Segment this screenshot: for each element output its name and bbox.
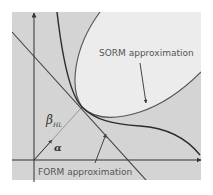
sorm-label: SORM approximation — [99, 48, 194, 58]
form-label: FORM approximation — [38, 167, 132, 177]
form-sorm-diagram: SORM approximation FORM approximation βH… — [0, 0, 213, 195]
beta-symbol: β — [45, 113, 53, 127]
beta-subscript: HL — [52, 121, 62, 128]
alpha-label: α — [54, 142, 62, 153]
